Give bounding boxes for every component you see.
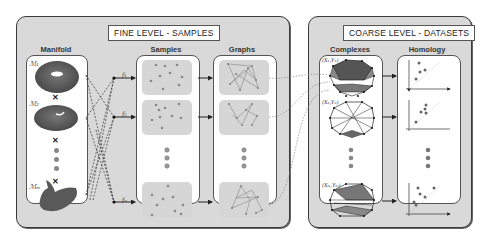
sampling-lines [86, 75, 114, 202]
graph-to-complex-links [269, 74, 330, 205]
diagram-graphics [0, 0, 486, 248]
blob-manifold [34, 105, 78, 131]
complex-2 [329, 101, 375, 138]
boomerang-manifold [40, 180, 78, 211]
torus-manifold [35, 61, 79, 93]
complex-m [329, 183, 375, 217]
complex-1 [329, 59, 375, 97]
